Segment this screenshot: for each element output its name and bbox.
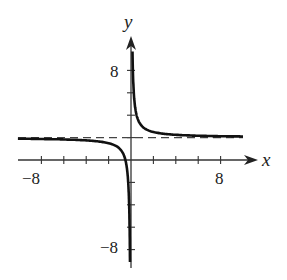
axes (18, 36, 258, 268)
y-tick-label-8: 8 (110, 62, 119, 81)
x-tick-label-8: 8 (215, 169, 224, 188)
y-tick-label-neg8: −8 (100, 238, 118, 257)
x-axis-label: x (261, 149, 271, 170)
rational-function-plot: y x −8 8 8 −8 (0, 0, 287, 280)
chart-container: y x −8 8 8 −8 (0, 0, 287, 280)
y-axis-label: y (122, 11, 133, 32)
right-branch-curve (133, 51, 244, 136)
x-tick-label-neg8: −8 (22, 169, 40, 188)
